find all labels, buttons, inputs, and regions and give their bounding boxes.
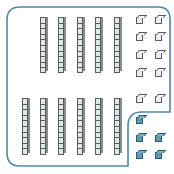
unit-cube [155,34,162,41]
unit-cube [155,52,162,59]
base-ten-diagram [0,0,174,174]
ten-rod-block [40,98,46,155]
unit-cube [155,70,162,77]
ten-rod-block [114,17,120,73]
ten-rod-block [58,98,64,155]
unit-cube [155,17,162,24]
ten-rod-block [114,98,120,155]
outside-unit-cube [155,152,162,159]
ten-rod-block [77,17,83,73]
ten-rod-block [95,98,101,155]
unit-cube [136,52,143,59]
ten-rod-block [77,98,83,155]
unit-cube [136,96,143,103]
ten-rod-block [58,17,64,73]
outside-unit-cube [155,135,162,142]
unit-cube [155,96,162,103]
ten-rod-block [40,17,46,73]
unit-cube [136,34,143,41]
outside-unit-cube [136,135,143,142]
outside-unit-cube [136,117,143,124]
ten-rod-block [95,17,101,73]
unit-cube [136,70,143,77]
ten-rod-block [22,98,28,155]
unit-cube [136,17,143,24]
outside-unit-cube [136,152,143,159]
